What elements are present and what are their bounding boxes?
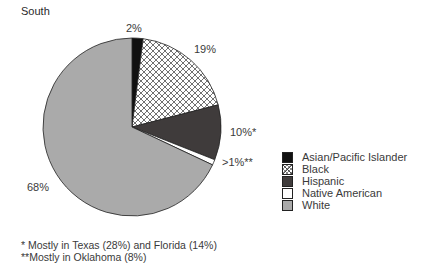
legend-item-native-american: Native American [282,187,407,199]
swatch-black [282,164,293,175]
legend-label: Native American [302,187,382,199]
label-hispanic: 10%* [230,126,256,138]
legend-item-black: Black [282,163,407,175]
footnote-2: **Mostly in Oklahoma (8%) [21,251,217,263]
legend-label: Hispanic [302,175,344,187]
legend-item-hispanic: Hispanic [282,175,407,187]
swatch-native-american [282,188,293,199]
legend-label: Black [302,163,329,175]
footnote-1: * Mostly in Texas (28%) and Florida (14%… [21,239,217,251]
label-black: 19% [194,43,216,55]
swatch-hispanic [282,176,293,187]
label-white: 68% [27,181,49,193]
legend-label: White [302,199,330,211]
swatch-white [282,200,293,211]
legend: Asian/Pacific Islander Black Hispanic Na… [282,151,407,211]
footnotes: * Mostly in Texas (28%) and Florida (14%… [21,239,217,263]
legend-item-asian: Asian/Pacific Islander [282,151,407,163]
label-native-american: >1%** [222,156,253,168]
pie-chart [0,0,429,270]
label-asian: 2% [126,22,142,34]
legend-item-white: White [282,199,407,211]
legend-label: Asian/Pacific Islander [302,151,407,163]
swatch-asian [282,152,293,163]
